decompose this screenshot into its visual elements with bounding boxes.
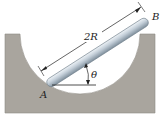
rod-in-cavity-diagram: 2R θ A B (0, 0, 164, 121)
angle-indicator: θ (84, 63, 97, 85)
arrowhead-a-icon (41, 66, 47, 71)
point-a-label: A (39, 89, 47, 100)
arrowhead-b-icon (135, 7, 141, 13)
extension-line-b (138, 2, 145, 12)
angle-label: θ (91, 69, 97, 80)
length-label: 2R (83, 31, 98, 42)
angle-arrow-bottom-icon (86, 80, 90, 85)
length-dimension: 2R (38, 2, 145, 76)
extension-line-a (38, 66, 44, 76)
point-b-label: B (151, 11, 159, 22)
